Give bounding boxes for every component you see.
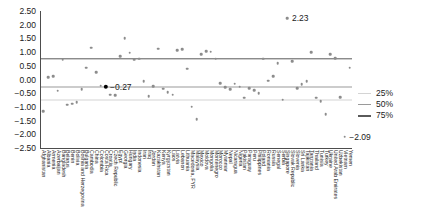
legend-item: 50% — [358, 99, 431, 110]
data-point — [243, 96, 246, 99]
data-point — [100, 85, 103, 88]
legend-line-swatch — [358, 93, 371, 95]
data-point — [305, 80, 308, 83]
y-axis-tick-label: 1.50 — [0, 34, 36, 43]
data-point — [76, 101, 79, 104]
data-point — [176, 49, 179, 52]
data-point — [200, 53, 203, 56]
y-axis-tick-label: 2.00 — [0, 20, 36, 29]
y-axis-tick-label: 1.00 — [0, 48, 36, 57]
data-point — [90, 46, 93, 49]
data-point — [133, 58, 136, 61]
legend-label: 75% — [376, 111, 393, 120]
data-point — [56, 89, 59, 92]
data-point — [262, 57, 265, 60]
data-point — [277, 62, 280, 65]
data-point — [186, 67, 189, 70]
legend-item: 75% — [358, 110, 431, 121]
data-point — [195, 118, 198, 121]
plot-area: −0.272.23−2.09 — [41, 11, 352, 148]
y-axis-tick-label: 0.00 — [0, 75, 36, 84]
data-point — [315, 96, 318, 99]
data-point — [334, 57, 337, 60]
data-point — [42, 110, 45, 113]
y-axis-tick-label: −2.00 — [0, 130, 36, 139]
legend-label: 50% — [376, 100, 393, 109]
data-point — [339, 96, 342, 99]
data-point — [166, 91, 169, 94]
data-point — [157, 48, 160, 51]
data-point — [95, 71, 98, 74]
data-point — [296, 87, 299, 90]
chart-legend: 25%50%75% — [358, 88, 431, 121]
data-point — [61, 58, 64, 61]
data-point — [310, 51, 313, 54]
data-point — [47, 76, 50, 79]
data-point — [119, 55, 122, 58]
data-point-annotation: 2.23 — [292, 14, 309, 23]
y-axis-tick-label: 0.50 — [0, 62, 36, 71]
data-point — [324, 113, 327, 116]
reference-line-25 — [41, 100, 352, 101]
data-point — [286, 17, 289, 20]
y-axis-tick-label: 2.50 — [0, 7, 36, 16]
data-point — [224, 86, 227, 89]
data-point — [103, 85, 107, 89]
reference-line-50 — [41, 86, 352, 87]
data-point — [66, 103, 69, 106]
x-axis-category-label: Yemen — [347, 150, 352, 166]
data-point-annotation: −2.09 — [349, 133, 371, 142]
legend-line-swatch — [358, 104, 371, 106]
data-point — [320, 100, 323, 103]
data-point — [171, 93, 174, 96]
data-point — [253, 89, 256, 92]
data-point — [214, 57, 217, 60]
data-point — [257, 92, 260, 95]
data-point — [348, 66, 351, 69]
data-point — [138, 57, 141, 60]
data-point — [52, 75, 55, 78]
data-point — [210, 51, 213, 54]
data-point — [85, 66, 88, 69]
y-axis-tick-label: −0.50 — [0, 89, 36, 98]
data-point — [329, 53, 332, 56]
data-point — [143, 80, 146, 83]
data-point — [238, 86, 241, 89]
x-axis-spine — [40, 148, 352, 149]
reference-line-75 — [41, 58, 352, 59]
y-axis-tick-label: −2.50 — [0, 144, 36, 153]
data-point — [229, 88, 232, 91]
legend-label: 25% — [376, 89, 393, 98]
data-point — [281, 98, 284, 101]
data-point-annotation: −0.27 — [110, 83, 132, 92]
data-point — [291, 60, 294, 63]
y-axis-tick-labels: 2.502.001.501.000.500.00−0.50−1.00−1.50−… — [0, 0, 36, 219]
data-point — [123, 37, 126, 40]
data-point — [114, 94, 117, 97]
data-point — [344, 135, 347, 138]
legend-line-swatch — [358, 115, 371, 117]
data-point — [162, 88, 165, 91]
data-point — [205, 50, 208, 53]
data-point — [80, 88, 83, 91]
data-point — [272, 75, 275, 78]
data-point — [152, 85, 155, 88]
scatter-chart-figure: 2.502.001.501.000.500.00−0.50−1.00−1.50−… — [0, 0, 431, 219]
data-point — [109, 93, 112, 96]
data-point — [128, 51, 131, 54]
data-point — [300, 83, 303, 86]
x-axis-category-labels: AfghanistanAlbaniaArmeniaAzerbaijanBangl… — [41, 150, 352, 219]
data-point — [147, 95, 150, 98]
data-point — [267, 80, 270, 83]
data-point — [233, 83, 236, 86]
data-point — [181, 48, 184, 51]
y-axis-tick-label: −1.50 — [0, 116, 36, 125]
data-point — [71, 102, 74, 105]
legend-item: 25% — [358, 88, 431, 99]
data-point — [219, 82, 222, 85]
data-point — [190, 106, 193, 109]
y-axis-tick-label: −1.00 — [0, 103, 36, 112]
data-point — [248, 87, 251, 90]
